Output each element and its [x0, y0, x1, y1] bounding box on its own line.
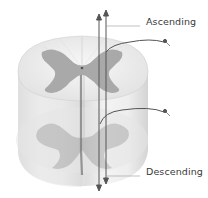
central-canal — [81, 67, 84, 70]
upper-cross-section — [18, 36, 148, 101]
ascending-label: Ascending — [146, 16, 196, 27]
descending-label: Descending — [146, 166, 203, 177]
